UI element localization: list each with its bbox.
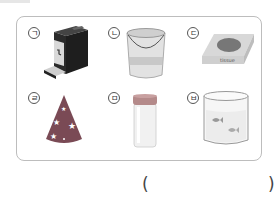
svg-text:★: ★: [68, 121, 76, 131]
header-strip: [0, 0, 30, 3]
choice-label-3: ㄷ: [187, 27, 199, 39]
bucket-image: [124, 27, 168, 85]
svg-text:tissue: tissue: [220, 57, 235, 63]
party-hat-image: ★ ★ ★ ★: [44, 93, 84, 151]
choice-label-6: ㅂ: [187, 92, 199, 104]
choice-label-5: ㅁ: [108, 92, 120, 104]
beaker-with-fish-image: [202, 90, 250, 152]
svg-text:★: ★: [53, 118, 60, 127]
choice-label-4: ㄹ: [28, 92, 40, 104]
choice-label-1: ㄱ: [28, 27, 40, 39]
coffee-machine-image: [42, 26, 90, 86]
answer-close-paren: ): [268, 174, 275, 194]
svg-text:★: ★: [50, 132, 57, 141]
svg-text:★: ★: [61, 105, 66, 112]
choice-label-2: ㄴ: [108, 27, 120, 39]
answer-open-paren: (: [142, 174, 149, 194]
answer-blank[interactable]: [152, 176, 264, 194]
vial-image: [131, 93, 159, 153]
tissue-box-image: tissue: [200, 30, 256, 72]
